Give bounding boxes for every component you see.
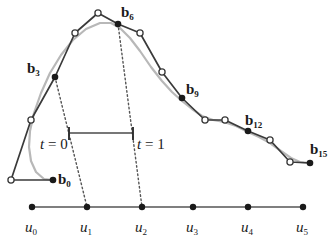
- knot-point-u1: [84, 204, 90, 210]
- label-u1: u1: [80, 220, 92, 235]
- label-u1-sub: 1: [88, 227, 93, 237]
- label-u5: u5: [296, 220, 308, 235]
- control-point-hollow: [222, 117, 228, 123]
- control-point-hollow: [95, 10, 101, 16]
- label-b12: b12: [245, 113, 262, 128]
- control-point-hollow: [8, 177, 14, 183]
- label-u2-sub: 2: [143, 227, 148, 237]
- knot-point-u4: [245, 204, 251, 210]
- label-t-zero: t = 0: [40, 137, 68, 152]
- control-point-hollow: [159, 69, 165, 75]
- label-b9-sub: 9: [194, 89, 199, 99]
- label-t-one-var: t: [137, 136, 141, 152]
- control-point-hollow: [28, 117, 34, 123]
- label-u4: u4: [241, 220, 253, 235]
- control-point-b6: [115, 21, 122, 28]
- label-u0-sub: 0: [33, 227, 38, 237]
- label-t-one: t = 1: [137, 137, 165, 152]
- label-u3-text: u: [186, 219, 194, 235]
- knot-point-u2: [139, 204, 145, 210]
- label-u2-text: u: [135, 219, 143, 235]
- label-u5-sub: 5: [304, 227, 309, 237]
- control-point-hollow: [267, 137, 273, 143]
- control-point-b0: [50, 177, 57, 184]
- control-point-b3: [52, 74, 59, 81]
- knot-point-u5: [300, 204, 306, 210]
- control-point-b9: [179, 95, 186, 102]
- bspline-curve: [29, 23, 310, 180]
- control-polygon-main: [11, 13, 310, 180]
- label-b15: b15: [310, 142, 327, 157]
- label-u3-sub: 3: [194, 227, 199, 237]
- label-b3: b3: [27, 61, 40, 76]
- control-point-hollow: [287, 159, 293, 165]
- knot-point-u3: [190, 204, 196, 210]
- control-point-hollow: [202, 117, 208, 123]
- control-point-b15: [307, 160, 314, 167]
- label-b0-sub: 0: [66, 179, 71, 189]
- label-b12-sub: 12: [253, 120, 262, 130]
- label-u0: u0: [25, 220, 37, 235]
- label-t-zero-var: t: [40, 136, 44, 152]
- label-b15-sub: 15: [318, 149, 327, 159]
- label-b9: b9: [186, 82, 199, 97]
- bspline-diagram: [0, 0, 336, 242]
- label-u3: u3: [186, 220, 198, 235]
- label-b3-sub: 3: [35, 68, 40, 78]
- label-u4-text: u: [241, 219, 249, 235]
- control-point-hollow: [137, 30, 143, 36]
- control-point-hollow: [72, 30, 78, 36]
- knot-point-u0: [29, 204, 35, 210]
- label-u2: u2: [135, 220, 147, 235]
- label-u5-text: u: [296, 219, 304, 235]
- label-b6-sub: 6: [129, 12, 134, 22]
- control-point-b12: [245, 128, 252, 135]
- label-u1-text: u: [80, 219, 88, 235]
- dotted-connector-b6-u2: [118, 24, 142, 207]
- label-t-one-val: = 1: [145, 136, 165, 152]
- label-u0-text: u: [25, 219, 33, 235]
- label-u4-sub: 4: [249, 227, 254, 237]
- label-b0: b0: [58, 172, 71, 187]
- label-b6: b6: [121, 5, 134, 20]
- label-t-zero-val: = 0: [48, 136, 68, 152]
